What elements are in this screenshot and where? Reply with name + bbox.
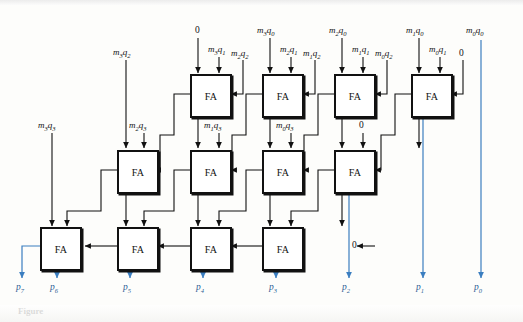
p-sub: 7 (21, 287, 24, 294)
p-sub: 6 (55, 287, 58, 294)
p-sub: 0 (479, 287, 482, 294)
wire-layer-extra (0, 0, 523, 322)
p-sub: 2 (347, 287, 350, 294)
output-label-p4: p4 (196, 283, 204, 294)
output-label-p1: p1 (416, 283, 424, 294)
p-sub: 4 (201, 287, 204, 294)
p-sub: 3 (274, 287, 277, 294)
output-label-p7: p7 (16, 283, 24, 294)
output-label-p6: p6 (50, 283, 58, 294)
output-label-p3: p3 (269, 283, 277, 294)
output-label-p0: p0 (474, 283, 482, 294)
figure-canvas: FA FA FA FA FA FA FA FA FA FA FA FA 0 m3… (0, 0, 523, 322)
output-label-p2: p2 (342, 283, 350, 294)
p-sub: 5 (128, 287, 131, 294)
p-sub: 1 (421, 287, 424, 294)
figure-caption: Figure (18, 306, 43, 316)
output-label-p5: p5 (123, 283, 131, 294)
